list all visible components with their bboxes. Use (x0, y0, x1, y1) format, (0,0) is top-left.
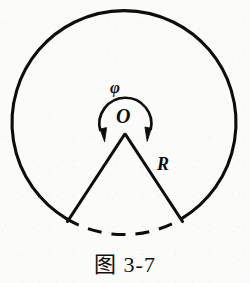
angle-arc-phi (99, 98, 151, 131)
angle-arc-arrowhead-right (145, 127, 152, 141)
circle-dashed-arc (66, 219, 181, 235)
figure-3-7: φ O R 图 3-7 (0, 0, 250, 283)
radius-line-right (126, 135, 183, 222)
circle-solid-arc (12, 11, 236, 219)
figure-drawing (0, 0, 250, 283)
figure-caption: 图 3-7 (0, 253, 250, 277)
radius-line-left (68, 135, 125, 222)
angle-arc-arrowhead-left (100, 128, 107, 142)
